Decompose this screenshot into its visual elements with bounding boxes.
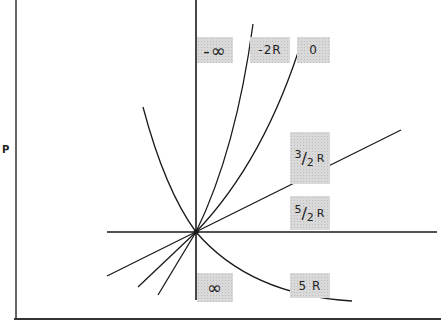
y-axis-label: P [2,144,9,155]
fraction-three-half-r: 3/2R [294,149,325,168]
fraction-denominator: 2 [307,211,315,224]
curve-zero [196,37,303,232]
label-zero-text: 0 [309,43,318,57]
label-five-half-r: 5/2R [290,196,330,230]
fraction-numerator: 5 [294,203,302,216]
label-zero: 0 [297,37,330,63]
label-neg-infinity-text: -∞ [203,40,227,61]
label-neg-two-r: -2R [250,37,290,63]
intersection-point [194,230,199,235]
label-neg-infinity: -∞ [197,37,233,63]
fraction-five-half-r: 5/2R [294,204,325,223]
label-five-r: 5 R [290,273,330,298]
label-five-r-text: 5 R [299,279,322,293]
fraction-unit: R [317,207,326,220]
label-infinity: ∞ [197,273,233,302]
fraction-numerator: 3 [294,148,302,161]
curve-left-upper [143,107,196,232]
curve-line-neg-two-r-lower [138,232,196,287]
fraction-denominator: 2 [307,156,315,169]
label-neg-two-r-text: -2R [258,43,281,57]
fraction-unit: R [317,152,326,165]
label-infinity-text: ∞ [207,277,223,298]
label-three-half-r: 3/2R [290,132,330,184]
